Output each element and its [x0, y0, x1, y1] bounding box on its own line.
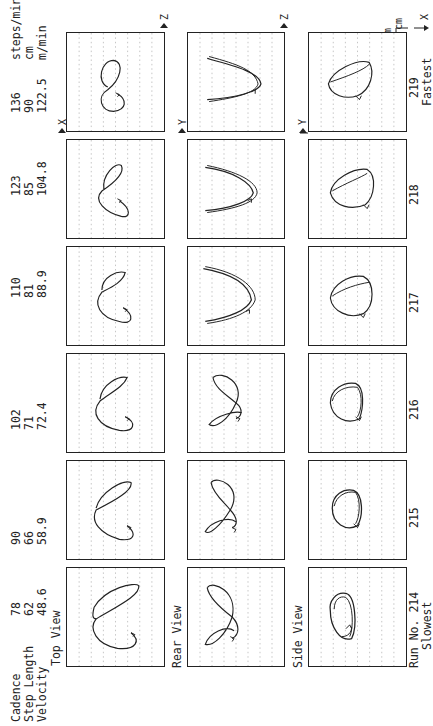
- panel-219-side-view: [308, 32, 407, 132]
- side-view-label: Side View: [292, 606, 305, 668]
- side-y-axis-label: Y: [297, 119, 308, 125]
- panel-215-top-view: [66, 460, 165, 560]
- panel-216-top-view: [66, 353, 165, 453]
- run-217-values: 110 81 88.9: [10, 270, 49, 298]
- panel-217-side-view: [308, 246, 407, 346]
- panel-216-rear-view: [187, 353, 285, 453]
- run-218-label: 218: [408, 184, 421, 205]
- panel-218-top-view: [66, 139, 165, 239]
- panel-218-rear-view: [187, 139, 285, 239]
- run-216-label: 216: [408, 399, 421, 420]
- run-215-label: 215: [408, 507, 421, 528]
- top-z-axis-label: Z: [159, 14, 170, 20]
- run-214-values: 78 62 48.6: [10, 588, 49, 616]
- rear-z-axis-label: Z: [279, 14, 290, 20]
- run-216-values: 102 71 72.4: [10, 402, 49, 430]
- panel-216-side-view: [308, 353, 407, 453]
- panel-214-top-view: [66, 567, 165, 667]
- panel-217-rear-view: [187, 246, 285, 346]
- run-217-label: 217: [408, 292, 421, 313]
- panel-214-side-view: [308, 567, 407, 667]
- panel-215-side-view: [308, 460, 407, 560]
- run-218-values: 123 85 104.8: [10, 161, 49, 196]
- panel-219-rear-view: [187, 32, 285, 132]
- panel-215-rear-view: [187, 460, 285, 560]
- panel-214-rear-view: [187, 567, 285, 667]
- run-215-values: 90 66 58.9: [10, 517, 49, 545]
- panel-217-top-view: [66, 246, 165, 346]
- row-header-labels: Cadence Step Length Velocity: [10, 646, 49, 722]
- slowest-label: Slowest: [421, 602, 433, 650]
- panel-218-side-view: [308, 139, 407, 239]
- panel-219-top-view: [66, 32, 165, 132]
- top-view-label: Top View: [50, 611, 63, 666]
- rear-view-label: Rear View: [171, 606, 184, 668]
